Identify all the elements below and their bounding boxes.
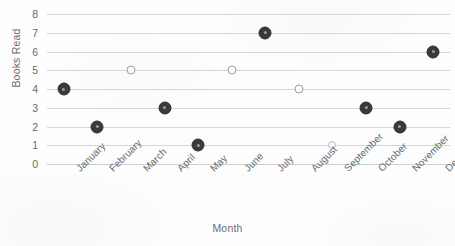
data-point-march[interactable]	[126, 66, 135, 75]
x-tick-label-june: June	[242, 166, 250, 174]
data-point-may[interactable]	[192, 139, 205, 152]
gridline-5	[47, 70, 450, 71]
data-point-january[interactable]	[57, 83, 70, 96]
gridline-6	[47, 52, 450, 53]
data-point-october[interactable]	[360, 101, 373, 114]
data-point-july[interactable]	[259, 26, 272, 39]
data-point-november[interactable]	[393, 120, 406, 133]
y-tick-label-5: 5	[32, 64, 38, 76]
y-tick-label-3: 3	[32, 102, 38, 114]
x-tick-label-august: August	[309, 166, 317, 174]
y-tick-label-4: 4	[32, 83, 38, 95]
x-axis-title: Month	[0, 222, 455, 234]
gridline-2	[47, 127, 450, 128]
x-tick-label-october: October	[376, 166, 384, 174]
y-tick-label-0: 0	[32, 158, 38, 170]
x-tick-label-september: September	[342, 166, 350, 174]
gridline-4	[47, 89, 450, 90]
data-point-april[interactable]	[158, 101, 171, 114]
data-point-february[interactable]	[91, 120, 104, 133]
y-axis-title: Books Read	[10, 8, 22, 108]
gridline-8	[47, 14, 450, 15]
y-tick-label-7: 7	[32, 27, 38, 39]
data-point-august[interactable]	[294, 85, 303, 94]
data-point-december[interactable]	[427, 45, 440, 58]
x-tick-label-july: July	[275, 166, 283, 174]
y-tick-label-6: 6	[32, 46, 38, 58]
x-tick-label-may: May	[208, 166, 216, 174]
x-axis-tick-labels: JanuaryFebruaryMarchAprilMayJuneJulyAugu…	[47, 166, 450, 222]
data-point-june[interactable]	[227, 66, 236, 75]
gridline-7	[47, 33, 450, 34]
x-tick-label-april: April	[175, 166, 183, 174]
y-tick-label-8: 8	[32, 8, 38, 20]
x-tick-label-january: January	[74, 166, 82, 174]
x-tick-label-february: February	[107, 166, 115, 174]
gridline-3	[47, 108, 450, 109]
y-tick-label-1: 1	[32, 139, 38, 151]
gridline-1	[47, 145, 450, 146]
x-tick-label-march: March	[141, 166, 149, 174]
y-tick-label-2: 2	[32, 121, 38, 133]
x-tick-label-december: December	[443, 166, 451, 174]
plot-area: 012345678	[47, 14, 450, 164]
x-tick-label-november: November	[410, 166, 418, 174]
books-read-scatter-chart: Books Read 012345678 JanuaryFebruaryMarc…	[0, 0, 455, 246]
